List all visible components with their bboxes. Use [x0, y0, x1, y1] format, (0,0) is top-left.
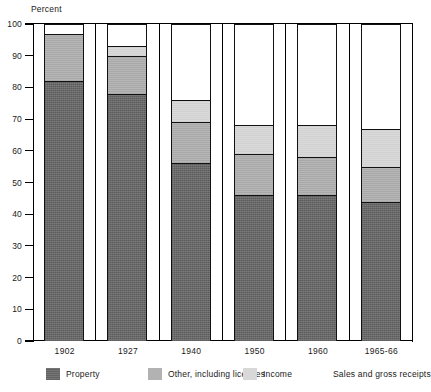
bar-segment-income[interactable] — [107, 46, 147, 56]
bar-segment-other[interactable] — [234, 154, 274, 195]
bar-segment-property[interactable] — [297, 195, 337, 341]
legend-label: Income — [263, 369, 292, 379]
y-axis-label: 100 — [0, 19, 22, 29]
bar-segment-property[interactable] — [107, 94, 147, 341]
bar-column — [33, 24, 96, 341]
x-axis-label: 1960 — [286, 346, 349, 356]
bar-segment-sales[interactable] — [44, 24, 84, 34]
legend-label: Sales and gross receipts — [333, 369, 431, 379]
bar-segment-sales[interactable] — [297, 24, 337, 125]
y-axis-label: 60 — [0, 146, 22, 156]
bar-segment-other[interactable] — [44, 34, 84, 82]
bar-segment-other[interactable] — [171, 122, 211, 163]
y-axis-label: 70 — [0, 114, 22, 124]
bar-segment-sales[interactable] — [234, 24, 274, 125]
x-axis-label: 1965-66 — [350, 346, 413, 356]
legend-swatch-icon — [243, 368, 257, 380]
x-axis-label: 1950 — [223, 346, 286, 356]
y-axis-title: Percent — [31, 4, 62, 14]
y-axis-label: 90 — [0, 51, 22, 61]
x-axis-label: 1927 — [96, 346, 159, 356]
y-axis-label: 10 — [0, 304, 22, 314]
bar-column — [223, 24, 286, 341]
bar-segment-income[interactable] — [234, 125, 274, 154]
bar-segment-other[interactable] — [297, 157, 337, 195]
bar-column — [160, 24, 223, 341]
bar-segment-property[interactable] — [171, 163, 211, 341]
bar-segment-sales[interactable] — [171, 24, 211, 100]
bars-layer — [33, 24, 413, 341]
chart-legend: PropertyOther, including licensesIncomeS… — [0, 366, 421, 386]
legend-label: Property — [66, 369, 100, 379]
bar-column — [286, 24, 349, 341]
legend-item[interactable]: Property — [46, 366, 100, 382]
y-axis-label: 20 — [0, 273, 22, 283]
bar-column — [96, 24, 159, 341]
legend-swatch-icon — [148, 368, 162, 380]
bar-segment-property[interactable] — [361, 202, 401, 341]
x-axis-label: 1902 — [33, 346, 96, 356]
y-axis-label: 30 — [0, 241, 22, 251]
legend-item[interactable]: Income — [243, 366, 292, 382]
y-axis-label: 0 — [0, 336, 22, 346]
bar-segment-property[interactable] — [44, 81, 84, 341]
bar-segment-property[interactable] — [234, 195, 274, 341]
y-axis-label: 80 — [0, 82, 22, 92]
legend-swatch-icon — [46, 368, 60, 380]
bar-segment-income[interactable] — [361, 129, 401, 167]
bar-segment-sales[interactable] — [361, 24, 401, 129]
bar-segment-sales[interactable] — [107, 24, 147, 46]
x-axis-label: 1940 — [160, 346, 223, 356]
bar-segment-income[interactable] — [297, 125, 337, 157]
bar-column — [350, 24, 413, 341]
bar-segment-other[interactable] — [361, 167, 401, 202]
bar-segment-other[interactable] — [107, 56, 147, 94]
legend-item[interactable]: Sales and gross receipts — [333, 366, 431, 382]
bar-segment-income[interactable] — [171, 100, 211, 122]
y-axis-label: 40 — [0, 209, 22, 219]
y-axis-label: 50 — [0, 178, 22, 188]
